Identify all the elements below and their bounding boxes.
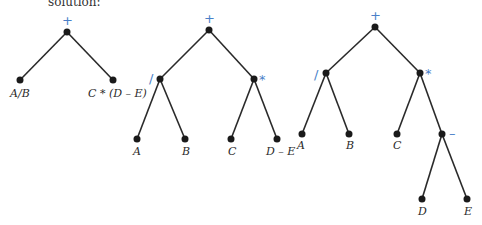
right-label: C * (D – E) [88,87,147,100]
leaf-label: A [296,139,305,152]
root-operator: + [370,8,381,23]
left-label: A/B [9,87,30,100]
edge [20,32,67,80]
expression-trees-diagram: solution: + A/B C * (D – E) + / * A B C … [0,0,482,225]
root-node [206,27,213,34]
leaf-label: D [417,205,427,218]
leaf-node [394,131,401,138]
leaf-label: B [345,139,354,152]
tree-3: + / * – A B C D E [296,8,472,218]
leaf-label: A [132,145,141,158]
leaf-label: C [228,145,237,158]
leaf-node [419,196,426,203]
leaf-label: B [181,145,190,158]
op-node [157,76,164,83]
leaf-node [464,196,471,203]
left-operator: / [314,67,319,82]
op-node [417,70,424,77]
leaf-node [134,136,141,143]
leaf-node [182,136,189,143]
tree-2: + / * A B C D – E [132,11,295,158]
leaf-label: D – E [265,145,295,158]
edge [160,79,185,139]
edge [254,79,277,139]
root-node [372,24,379,31]
leaf-node [299,131,306,138]
op-node [251,76,258,83]
leaf-node [110,77,117,84]
leaf-label: E [463,205,472,218]
edge [302,73,326,134]
header-text: solution: [48,0,101,9]
edge [231,79,254,139]
tree-1: + A/B C * (D – E) [9,13,147,100]
op-node [439,131,446,138]
edge [160,30,209,79]
leaf-node [17,77,24,84]
root-operator: + [62,13,73,28]
leaf-node [274,136,281,143]
sub-operator: – [449,126,456,141]
left-operator: / [149,71,154,86]
edge [326,27,375,73]
edge [67,32,113,80]
edge [442,134,467,199]
right-operator: * [425,66,432,81]
leaf-node [346,131,353,138]
op-node [323,70,330,77]
edge [209,30,254,79]
edge [420,73,442,134]
edge [326,73,349,134]
right-operator: * [259,72,266,87]
edge [375,27,420,73]
leaf-label: C [393,139,402,152]
edge [422,134,442,199]
edge [397,73,420,134]
root-node [64,29,71,36]
root-operator: + [204,11,215,26]
leaf-node [228,136,235,143]
